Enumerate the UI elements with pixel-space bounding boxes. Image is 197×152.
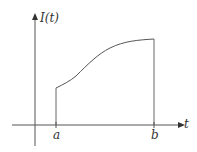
tick-label-b: b	[151, 128, 159, 142]
y-axis-arrow-icon	[32, 13, 38, 20]
curve-I-of-t	[56, 39, 154, 88]
x-axis-label: t	[184, 117, 189, 131]
y-axis-label: I(t)	[39, 11, 59, 25]
integral-diagram: I(t) t a b	[0, 0, 197, 152]
tick-label-a: a	[53, 128, 60, 142]
